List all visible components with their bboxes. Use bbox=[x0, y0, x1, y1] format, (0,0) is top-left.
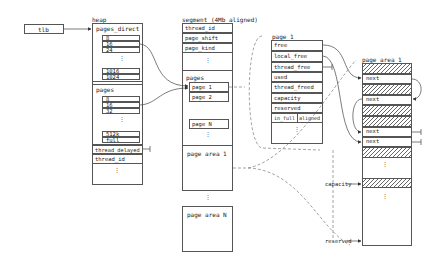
connector-lines bbox=[0, 0, 437, 262]
